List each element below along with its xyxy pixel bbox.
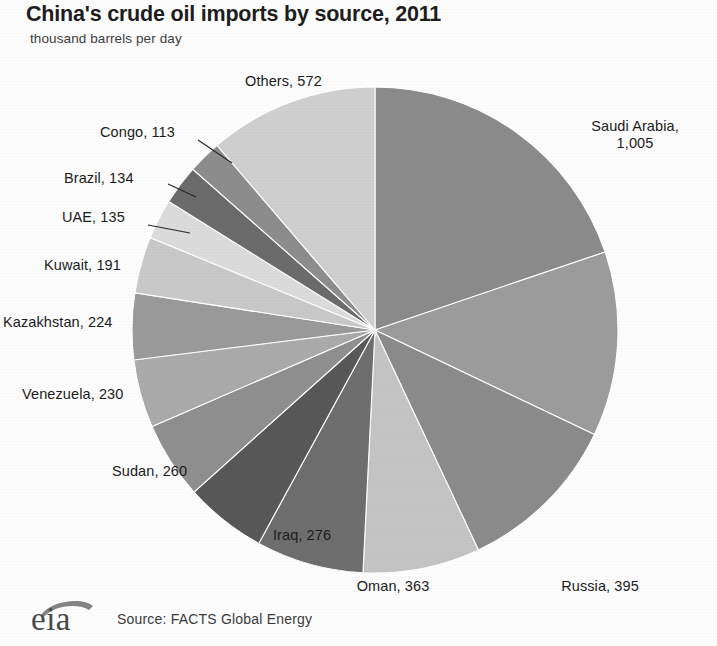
pie-slice-label: Venezuela, 230 xyxy=(22,386,182,403)
pie-slice-label-value: 1,005 xyxy=(560,135,710,152)
pie-slice-label: Iraq, 276 xyxy=(222,527,382,544)
pie-slice-label: Oman, 363 xyxy=(313,578,473,595)
eia-logo: eia xyxy=(31,598,105,638)
pie-slice-label: UAE, 135 xyxy=(62,209,182,226)
pie-slice-label: Kuwait, 191 xyxy=(44,257,204,274)
pie-slice-label: Others, 572 xyxy=(245,73,405,90)
pie-slice-label: Congo, 113 xyxy=(100,124,230,141)
chart-page: China's crude oil imports by source, 201… xyxy=(0,0,717,646)
pie-slice-label: Sudan, 260 xyxy=(112,463,272,480)
pie-slices xyxy=(132,87,618,573)
eia-wordmark: eia xyxy=(31,603,71,636)
pie-slice-label: Russia, 395 xyxy=(520,578,680,595)
chart-footer: eia Source: FACTS Global Energy xyxy=(0,594,717,646)
pie-chart: Saudi Arabia,1,005Angola, 623Iran, 555Ru… xyxy=(0,0,717,600)
pie-slice-label: Saudi Arabia,1,005 xyxy=(560,118,710,153)
pie-slice-label: Iran, 555 xyxy=(615,500,717,517)
pie-slice-label-name: Saudi Arabia, xyxy=(560,118,710,135)
pie-slice-label: Angola, 623 xyxy=(685,327,717,344)
source-note: Source: FACTS Global Energy xyxy=(117,611,312,627)
pie-slice-label: Kazakhstan, 224 xyxy=(3,314,163,331)
pie-slice-label: Brazil, 134 xyxy=(64,170,184,187)
